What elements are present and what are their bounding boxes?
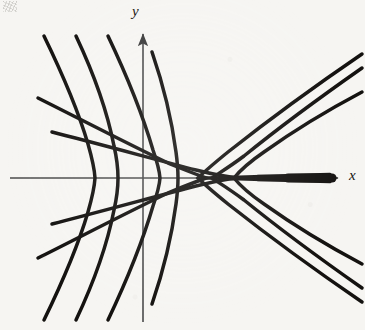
x-axis-label: x <box>349 168 356 183</box>
y-axis-label: y <box>132 4 139 19</box>
figure-canvas <box>0 0 365 330</box>
parabolic-coordinates-figure: y x <box>0 0 365 330</box>
